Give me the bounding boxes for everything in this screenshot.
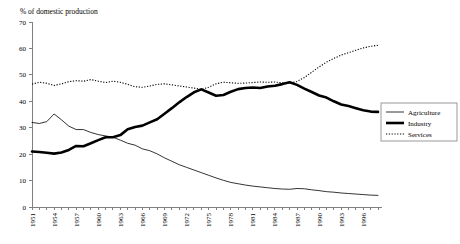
legend-label-industry: Industry (408, 120, 432, 128)
x-axis-tick-label: 1978 (227, 213, 235, 228)
chart-container: % of domestic production 010203040506070… (0, 0, 460, 244)
chart-title-group: % of domestic production (20, 7, 98, 16)
x-axis-tick-label: 1984 (271, 213, 279, 228)
chart-svg: % of domestic production 010203040506070… (0, 0, 460, 244)
chart-title: % of domestic production (20, 7, 98, 16)
chart-legend: AgricultureIndustryServices (381, 103, 457, 141)
x-axis-tick-label: 1972 (183, 213, 191, 228)
series-lines (32, 45, 378, 195)
x-axis-tick-label: 1951 (29, 213, 37, 228)
x-axis-tick-label: 1966 (139, 213, 147, 228)
x-axis-tick-label: 1963 (117, 213, 125, 228)
legend-label-services: Services (408, 131, 432, 139)
x-axis-tick-label: 1990 (316, 213, 324, 228)
y-axis-tick-label: 70 (19, 19, 27, 27)
x-axis-tick-label: 1993 (338, 213, 346, 228)
y-axis-tick-label: 0 (23, 204, 27, 212)
x-axis-tick-label: 1975 (205, 213, 213, 228)
y-axis-tick-label: 40 (19, 98, 27, 106)
y-axis-tick-label: 10 (19, 177, 27, 185)
legend-label-agriculture: Agriculture (408, 109, 440, 117)
x-axis-tick-label: 1954 (51, 213, 59, 228)
y-axis-tick-label: 60 (19, 45, 27, 53)
x-axis-tick-label: 1987 (294, 213, 302, 228)
y-axis-tick-label: 50 (19, 71, 27, 79)
x-axis-tick-label: 1957 (73, 213, 81, 228)
y-axis-tick-label: 20 (19, 151, 27, 159)
x-axis-tick-label: 1996 (360, 213, 368, 228)
series-line-services (32, 45, 378, 89)
x-axis-tick-label: 1960 (95, 213, 103, 228)
series-line-agriculture (32, 114, 378, 195)
x-axis-tick-label: 1969 (161, 213, 169, 228)
y-axis: 010203040506070 (19, 19, 32, 212)
series-line-industry (32, 82, 378, 153)
x-axis: 1951195419571960196319661969197219751978… (29, 207, 383, 227)
y-axis-tick-label: 30 (19, 124, 27, 132)
x-axis-tick-label: 1981 (249, 213, 257, 228)
